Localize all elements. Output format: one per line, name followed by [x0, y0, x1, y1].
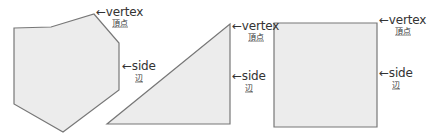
hexagon-side-label: ←side 辺 — [122, 60, 156, 83]
square-vertex-label: ←vertex 頂点 — [379, 14, 426, 36]
arrow-left-icon: ← — [379, 66, 389, 80]
arrow-left-icon: ← — [122, 59, 132, 73]
shapes-canvas — [0, 0, 430, 138]
arrow-left-icon: ← — [232, 69, 242, 83]
hexagon-vertex-label: ←vertex 頂点 — [96, 6, 143, 28]
square-side-label: ←side 辺 — [379, 67, 413, 90]
arrow-left-icon: ← — [232, 19, 242, 33]
triangle-vertex-label: ←vertex 頂点 — [232, 20, 279, 42]
hexagon-shape — [14, 14, 119, 132]
triangle-side-label: ←side 辺 — [232, 70, 266, 93]
square-shape — [274, 23, 377, 127]
arrow-left-icon: ← — [379, 13, 389, 27]
arrow-left-icon: ← — [96, 5, 106, 19]
